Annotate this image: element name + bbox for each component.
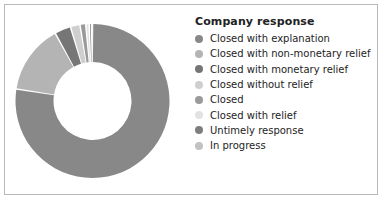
legend-item-label: Closed without relief xyxy=(210,79,313,90)
legend-item-label: Closed with non-monetary relief xyxy=(210,48,370,59)
legend-item-label: Closed xyxy=(210,94,244,105)
legend-swatch-closed-with-monetary-relief xyxy=(195,65,203,73)
legend-item[interactable]: Untimely response xyxy=(193,123,379,138)
donut-svg xyxy=(13,21,185,191)
legend-title: Company response xyxy=(195,15,379,28)
legend-item[interactable]: Closed without relief xyxy=(193,77,379,92)
legend-swatch-closed xyxy=(195,96,203,104)
legend-item-label: In progress xyxy=(210,140,266,151)
legend-swatch-closed-with-non-monetary-relief xyxy=(195,50,203,58)
legend-item[interactable]: Closed with non-monetary relief xyxy=(193,46,379,61)
donut-chart xyxy=(13,21,185,191)
donut-wedge-group xyxy=(16,24,170,178)
legend-swatch-in-progress xyxy=(195,142,203,150)
legend-item-label: Closed with monetary relief xyxy=(210,64,348,75)
legend-item-label: Closed with explanation xyxy=(210,33,330,44)
chart-legend: Company response Closed with explanation… xyxy=(193,15,379,153)
legend-item-label: Closed with relief xyxy=(210,110,296,121)
legend-items: Closed with explanationClosed with non-m… xyxy=(193,31,379,153)
chart-figure: Company response Closed with explanation… xyxy=(0,0,384,200)
legend-item[interactable]: Closed with explanation xyxy=(193,31,379,46)
legend-item-label: Untimely response xyxy=(210,125,304,136)
legend-item[interactable]: Closed with relief xyxy=(193,107,379,122)
legend-swatch-closed-with-explanation xyxy=(195,35,203,43)
legend-swatch-closed-without-relief xyxy=(195,81,203,89)
legend-item[interactable]: Closed xyxy=(193,92,379,107)
legend-item[interactable]: Closed with monetary relief xyxy=(193,62,379,77)
legend-swatch-closed-with-relief xyxy=(195,111,203,119)
legend-swatch-untimely-response xyxy=(195,126,203,134)
legend-item[interactable]: In progress xyxy=(193,138,379,153)
figure-frame: Company response Closed with explanation… xyxy=(4,4,378,195)
donut-slice[interactable] xyxy=(90,24,92,62)
